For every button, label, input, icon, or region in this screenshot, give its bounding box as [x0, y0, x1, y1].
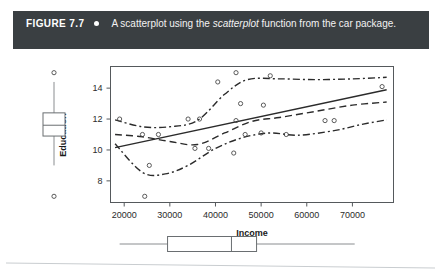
- bullet-dot-icon: [94, 21, 99, 26]
- scatterplot-figure: 8101214 200003000040000500006000070000 E…: [0, 49, 441, 276]
- education-marginal-boxplot: [43, 71, 65, 199]
- figure-number-label: FIGURE 7.7: [26, 17, 84, 30]
- data-point: [332, 118, 336, 122]
- data-point: [323, 118, 327, 122]
- fitted-lines-layer: [115, 77, 387, 175]
- x-tick-label: 50000: [249, 210, 274, 220]
- data-point: [156, 132, 160, 136]
- y-tick-label: 8: [97, 176, 102, 186]
- data-point: [243, 132, 247, 136]
- y-tick-label: 10: [92, 145, 102, 155]
- x-tick-label: 70000: [340, 210, 365, 220]
- education-box-outlier: [52, 71, 56, 75]
- data-point: [216, 80, 220, 84]
- x-tick-label: 20000: [112, 210, 137, 220]
- scatterplot-svg: 8101214 200003000040000500006000070000 E…: [0, 49, 441, 276]
- data-point: [268, 74, 272, 78]
- page-bottom-rule: [6, 263, 435, 268]
- income-marginal-boxplot: [120, 237, 355, 252]
- fitted-line-linear-regression: [115, 90, 387, 148]
- data-point: [186, 117, 190, 121]
- data-point: [234, 71, 238, 75]
- x-tick-label: 30000: [157, 210, 182, 220]
- data-point: [193, 146, 197, 150]
- figure-caption-banner: FIGURE 7.7 A scatterplot using the scatt…: [13, 11, 429, 49]
- caption-part-before: A scatterplot using the: [111, 18, 212, 29]
- education-box-iqr: [43, 113, 65, 136]
- x-axis-ticks: 200003000040000500006000070000: [112, 203, 365, 220]
- data-point: [147, 163, 151, 167]
- data-point: [140, 132, 144, 136]
- y-axis-ticks: 8101214: [92, 83, 110, 186]
- education-box-outlier: [52, 194, 56, 198]
- income-box-iqr: [168, 237, 257, 252]
- data-point: [261, 103, 265, 107]
- figure-caption-text: A scatterplot using the scatterplot func…: [111, 17, 396, 30]
- plot-panel-frame: [111, 67, 394, 203]
- fitted-line-spread-upper: [115, 77, 387, 127]
- figure-page: FIGURE 7.7 A scatterplot using the scatt…: [0, 0, 441, 276]
- x-tick-label: 40000: [203, 210, 228, 220]
- y-tick-label: 14: [92, 83, 102, 93]
- data-point: [380, 84, 384, 88]
- data-point: [232, 151, 236, 155]
- data-point: [143, 194, 147, 198]
- x-tick-label: 60000: [294, 210, 319, 220]
- y-tick-label: 12: [92, 114, 102, 124]
- data-point: [207, 146, 211, 150]
- data-point: [238, 101, 242, 105]
- caption-italic-term: scatterplot: [213, 18, 259, 29]
- caption-part-after: function from the car package.: [259, 18, 396, 29]
- data-points-layer: [118, 71, 385, 199]
